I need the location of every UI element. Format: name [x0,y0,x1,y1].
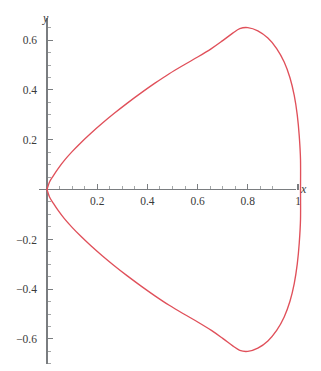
plot-canvas: 0.20.40.60.810.60.40.2−0.2−0.4−0.6 x y [0,0,321,371]
x-tick-label: 0.6 [190,195,205,207]
y-axis-label: y [42,11,49,25]
y-tick-label: 0.2 [23,134,38,146]
x-tick-label: 0.8 [241,195,256,207]
axis-lines-group [39,18,296,364]
x-tick-label: 0.2 [90,195,105,207]
curve-lower-branch [47,190,301,352]
y-tick-label: −0.2 [16,234,37,246]
y-tick-label: 0.6 [23,34,38,46]
x-tick-label: 0.4 [140,195,155,207]
y-tick-label: −0.4 [16,283,37,295]
minor-ticks-group [47,28,273,364]
y-tick-label: −0.6 [16,333,37,345]
y-tick-label: 0.4 [23,84,38,96]
curve-upper-branch [47,28,301,190]
x-axis-label: x [300,182,307,196]
plot-figure: 0.20.40.60.810.60.40.2−0.2−0.4−0.6 x y [0,0,321,371]
